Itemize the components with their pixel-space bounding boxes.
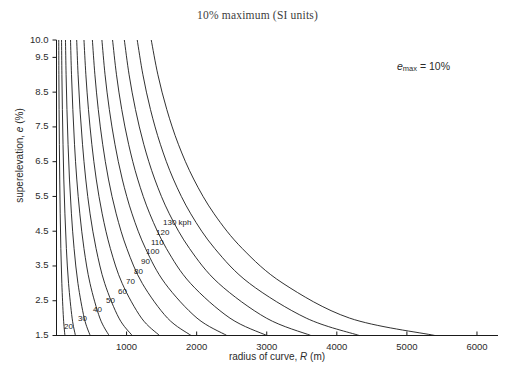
x-tick-label: 5000 <box>383 341 431 352</box>
y-tick-label: 7.5 <box>15 120 49 131</box>
y-tick-label: 2.5 <box>15 294 49 305</box>
y-tick-label: 6.5 <box>15 155 49 166</box>
y-tick-label: 4.5 <box>15 225 49 236</box>
curve-label-130-kph: 130 kph <box>163 218 191 227</box>
curve-label-100: 100 <box>146 247 159 256</box>
x-tick-label: 6000 <box>453 341 501 352</box>
speed-curve-130 <box>151 40 435 336</box>
speed-curves <box>59 40 435 336</box>
y-tick-label: 8.5 <box>15 86 49 97</box>
speed-curve-50 <box>71 40 110 336</box>
curve-label-50: 50 <box>106 296 115 305</box>
y-axis-ticks <box>53 40 57 336</box>
curve-label-70: 70 <box>126 277 135 286</box>
x-tick-label: 1000 <box>103 341 151 352</box>
superelevation-chart-figure: 10% maximum (SI units) emax = 10% supere… <box>0 0 515 370</box>
speed-curve-110 <box>124 40 311 336</box>
x-tick-label: 4000 <box>313 341 361 352</box>
y-tick-label: 10.0 <box>15 34 49 45</box>
curve-label-60: 60 <box>118 287 127 296</box>
x-tick-label: 3000 <box>243 341 291 352</box>
curve-label-30: 30 <box>78 314 87 323</box>
curve-label-80: 80 <box>134 267 143 276</box>
curve-label-20: 20 <box>64 322 73 331</box>
curve-label-40: 40 <box>93 305 102 314</box>
curve-label-110: 110 <box>151 238 164 247</box>
x-tick-label: 2000 <box>173 341 221 352</box>
y-tick-label: 5.5 <box>15 190 49 201</box>
y-tick-label: 1.5 <box>15 329 49 340</box>
y-tick-label: 3.5 <box>15 259 49 270</box>
curve-label-90: 90 <box>141 257 150 266</box>
curve-label-120: 120 <box>156 228 169 237</box>
y-tick-label: 9.5 <box>15 51 49 62</box>
speed-curve-100 <box>113 40 267 336</box>
speed-curve-30 <box>62 40 76 336</box>
